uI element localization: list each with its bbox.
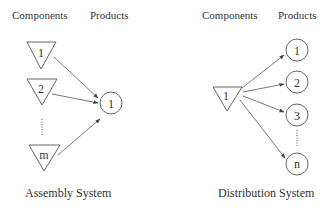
assembly-products-header: Products [90,9,129,21]
assembly-component-m: m [29,145,60,171]
distribution-caption: Distribution System [218,186,315,200]
distribution-products-header: Products [278,9,317,21]
distribution-product-2-label: 2 [294,76,300,90]
arrow-icon [52,94,98,103]
assembly-component-1-label: 1 [38,46,44,60]
distribution-component-1-label: 1 [223,89,229,103]
distribution-product-3-label: 3 [294,109,300,123]
assembly-product-1-label: 1 [108,97,114,111]
arrow-icon [242,55,284,88]
distribution-product-1-label: 1 [294,44,300,58]
arrow-icon [243,96,284,112]
distribution-component-1: 1 [213,87,242,111]
assembly-component-1: 1 [27,42,56,69]
arrow-icon [243,84,284,92]
assembly-component-2: 2 [27,79,57,105]
arrow-icon [58,119,100,155]
distribution-product-3: 3 [286,104,308,126]
distribution-product-n-label: n [294,157,300,171]
assembly-caption: Assembly System [25,186,112,200]
distribution-product-1: 1 [286,39,308,61]
assembly-component-2-label: 2 [38,82,44,96]
arrow-icon [54,57,98,98]
distribution-product-2: 2 [286,71,308,93]
assembly-product-1: 1 [100,92,122,114]
distribution-system: Components Products 1 1 2 3 n Dis [202,9,317,200]
distribution-product-n: n [286,153,308,175]
distribution-components-header: Components [202,9,258,21]
assembly-components-header: Components [12,9,68,21]
supply-system-diagram: Components Products 1 2 m 1 Assembly Sys… [0,0,324,211]
assembly-system: Components Products 1 2 m 1 Assembly Sys… [12,9,129,200]
arrow-icon [240,100,285,158]
assembly-component-m-label: m [39,148,49,162]
